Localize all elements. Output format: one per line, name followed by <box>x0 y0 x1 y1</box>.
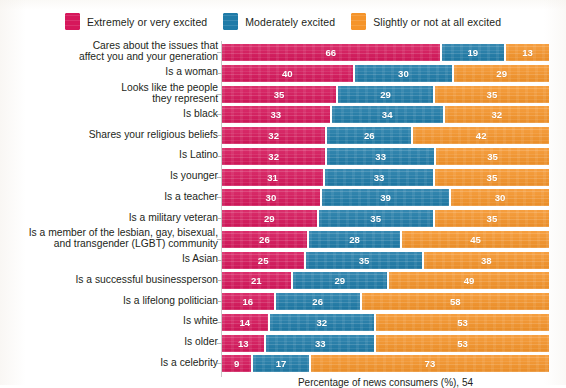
chart-plot-area: Cares about the issues that affect you a… <box>0 41 566 377</box>
stacked-bar: 323335 <box>222 147 549 166</box>
bar-value-label: 29 <box>334 275 345 286</box>
bar-segment: 58 <box>362 293 549 310</box>
bar-segment: 35 <box>435 169 549 186</box>
bar-segment: 35 <box>435 210 549 227</box>
bar-segment: 32 <box>222 127 325 144</box>
bar-value-label: 33 <box>375 151 386 162</box>
chart-row: Is a celebrity91773 <box>0 354 566 373</box>
bar-value-label: 35 <box>487 151 498 162</box>
bar-value-label: 33 <box>315 338 326 349</box>
x-axis-label: Percentage of news consumers (%), 54 <box>222 377 549 388</box>
chart-row: Cares about the issues that affect you a… <box>0 43 566 62</box>
chart-row: Is a teacher303930 <box>0 188 566 207</box>
category-label: Looks like the people they represent <box>8 83 218 105</box>
category-label: Is younger <box>8 171 218 182</box>
legend-item-1[interactable]: Moderately excited <box>223 13 335 30</box>
bar-value-label: 49 <box>464 275 475 286</box>
bar-segment: 26 <box>327 127 411 144</box>
bar-value-label: 35 <box>487 172 498 183</box>
legend-item-2[interactable]: Slightly or not at all excited <box>351 13 501 30</box>
bar-segment: 33 <box>266 335 374 352</box>
bar-segment: 66 <box>222 44 440 61</box>
bar-segment: 73 <box>311 355 549 372</box>
bar-value-label: 30 <box>266 192 277 203</box>
category-label: Is older <box>8 337 218 348</box>
bar-value-label: 40 <box>282 68 293 79</box>
stacked-bar: 403029 <box>222 64 549 83</box>
bar-value-label: 29 <box>496 68 507 79</box>
bar-value-label: 39 <box>380 192 391 203</box>
chart-row: Is black333432 <box>0 105 566 124</box>
bar-segment: 30 <box>355 65 453 82</box>
bar-value-label: 9 <box>234 358 239 369</box>
bar-segment: 31 <box>222 169 323 186</box>
category-label: Shares your religious beliefs <box>8 130 218 141</box>
chart-row: Is older133353 <box>0 334 566 353</box>
bar-segment: 33 <box>325 169 433 186</box>
bar-segment: 30 <box>222 189 320 206</box>
bar-segment: 33 <box>327 148 434 165</box>
bar-segment: 28 <box>309 231 400 248</box>
bar-segment: 30 <box>451 189 549 206</box>
category-label: Is white <box>8 316 218 327</box>
bar-value-label: 14 <box>240 317 251 328</box>
bar-value-label: 26 <box>259 234 270 245</box>
bar-value-label: 30 <box>495 192 506 203</box>
stacked-bar: 322642 <box>222 126 549 145</box>
bar-segment: 35 <box>319 210 433 227</box>
legend-swatch-icon <box>351 13 366 30</box>
bar-value-label: 45 <box>470 234 481 245</box>
category-label: Is a lifelong politician <box>8 296 218 307</box>
chart-row: Is a member of the lesbian, gay, bisexua… <box>0 230 566 249</box>
bar-segment: 21 <box>222 272 291 289</box>
bar-segment: 25 <box>222 252 304 269</box>
stacked-bar: 661913 <box>222 43 549 62</box>
chart-row: Is younger313335 <box>0 168 566 187</box>
bar-segment: 13 <box>506 44 549 61</box>
bar-segment: 33 <box>222 106 330 123</box>
bar-segment: 32 <box>445 106 549 123</box>
bar-segment: 14 <box>222 314 268 331</box>
bar-value-label: 42 <box>476 130 487 141</box>
bar-value-label: 35 <box>359 255 370 266</box>
bar-value-label: 19 <box>468 47 479 58</box>
bar-segment: 45 <box>402 231 549 248</box>
stacked-bar: 352935 <box>222 85 549 104</box>
legend-item-label: Moderately excited <box>245 16 335 28</box>
bar-segment: 35 <box>435 86 549 103</box>
bar-value-label: 33 <box>374 172 385 183</box>
stacked-bar: 133353 <box>222 334 549 353</box>
bar-segment: 40 <box>222 65 353 82</box>
bar-value-label: 25 <box>258 255 269 266</box>
legend-item-0[interactable]: Extremely or very excited <box>65 13 207 30</box>
bar-value-label: 32 <box>491 109 502 120</box>
bar-segment: 17 <box>253 355 308 372</box>
bar-segment: 29 <box>454 65 549 82</box>
stacked-bar: 143253 <box>222 313 549 332</box>
bar-segment: 39 <box>322 189 449 206</box>
stacked-bar: 313335 <box>222 168 549 187</box>
bar-segment: 29 <box>222 210 317 227</box>
stacked-bar: 212949 <box>222 271 549 290</box>
chart-row: Looks like the people they represent3529… <box>0 85 566 104</box>
bar-segment: 26 <box>276 293 360 310</box>
category-label: Is a celebrity <box>8 358 218 369</box>
chart-row: Is a woman403029 <box>0 64 566 83</box>
bar-value-label: 38 <box>481 255 492 266</box>
bar-segment: 35 <box>222 86 336 103</box>
legend-swatch-icon <box>65 13 80 30</box>
bar-segment: 29 <box>338 86 433 103</box>
bar-value-label: 32 <box>268 130 279 141</box>
category-label: Cares about the issues that affect you a… <box>8 41 218 63</box>
bar-value-label: 29 <box>264 213 275 224</box>
bar-segment: 35 <box>436 148 549 165</box>
bar-segment: 53 <box>376 335 549 352</box>
bar-value-label: 66 <box>325 47 336 58</box>
bar-value-label: 30 <box>398 68 409 79</box>
bar-value-label: 32 <box>268 151 279 162</box>
bar-segment: 34 <box>332 106 443 123</box>
bar-segment: 38 <box>424 252 549 269</box>
bar-value-label: 73 <box>425 358 436 369</box>
chart-row: Is a successful businessperson212949 <box>0 271 566 290</box>
bar-value-label: 33 <box>271 109 282 120</box>
